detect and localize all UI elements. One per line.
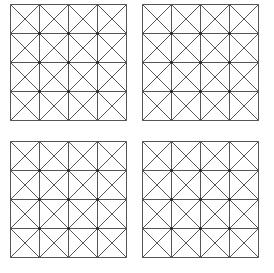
grid-lines [10,4,127,121]
grid-top-left [10,4,127,121]
grid-lines [142,4,259,121]
grid-bottom-left [10,141,127,258]
grid-lines [142,141,259,258]
grid-lines [10,141,127,258]
grid-bottom-right [142,141,259,258]
grid-top-right [142,4,259,121]
